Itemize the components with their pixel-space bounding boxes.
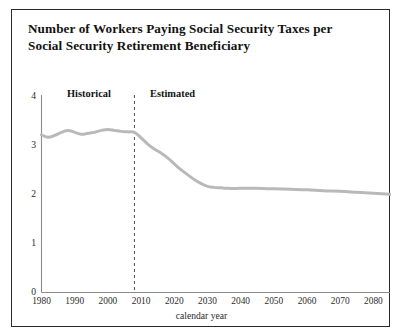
chart-panel: Number of Workers Paying Social Security… [11, 9, 390, 327]
annotation-estimated: Estimated [150, 88, 195, 99]
x-tick-2020: 2020 [165, 296, 184, 306]
x-tick-1980: 1980 [32, 296, 51, 306]
x-tick-1990: 1990 [65, 296, 84, 306]
annotation-historical: Historical [67, 88, 111, 99]
y-tick-2: 2 [20, 188, 36, 199]
chart-plot-area [12, 10, 391, 328]
x-tick-2080: 2080 [364, 296, 383, 306]
x-tick-2030: 2030 [198, 296, 217, 306]
y-tick-4: 4 [20, 90, 36, 101]
x-tick-2000: 2000 [99, 296, 118, 306]
chart-axes [42, 95, 391, 293]
data-line-workers-per-beneficiary [42, 129, 391, 194]
y-tick-1: 1 [20, 237, 36, 248]
y-tick-3: 3 [20, 139, 36, 150]
x-tick-2070: 2070 [331, 296, 350, 306]
x-tick-2050: 2050 [264, 296, 283, 306]
x-axis-title: calendar year [12, 310, 391, 321]
x-tick-2040: 2040 [231, 296, 250, 306]
x-tick-2060: 2060 [298, 296, 317, 306]
x-tick-2010: 2010 [132, 296, 151, 306]
